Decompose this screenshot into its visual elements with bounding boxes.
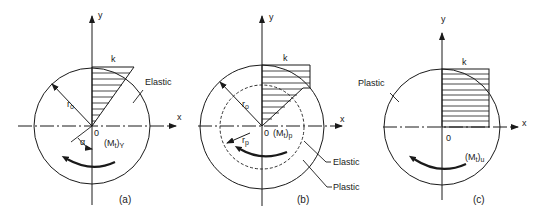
torsion-stress-distribution-figure: y x k Elastic ro 0 α (Mt)Y (a) [0, 0, 540, 219]
partial-plastic-torque-label: (Mt)p [273, 128, 292, 140]
hatch-lines [262, 71, 310, 119]
plastic-radius-label: rp [242, 135, 249, 147]
panel-b-caption: (b) [297, 194, 309, 205]
panel-a-labels: y x k Elastic ro 0 α (Mt)Y (a) [67, 10, 182, 205]
plastic-label: Plastic [333, 182, 360, 192]
shear-stress-label: k [111, 54, 116, 64]
torque-arrow [240, 149, 287, 156]
elastic-leader [304, 141, 331, 162]
torque-arrow [414, 159, 466, 169]
origin-label: 0 [446, 133, 451, 143]
panel-a-elastic [18, 16, 176, 205]
shear-stress-label: k [462, 57, 467, 67]
origin-label: 0 [264, 128, 269, 138]
stress-profile [262, 65, 310, 126]
plastic-leader [303, 160, 332, 187]
panel-c-fully-plastic [383, 33, 518, 200]
panel-b-labels: y x k ro rp 0 (Mt)p Elastic Plastic (b) [242, 12, 360, 205]
x-axis-label: x [522, 118, 527, 128]
angle-alpha-label: α [80, 137, 85, 147]
stress-triangle [92, 67, 134, 126]
origin-label: 0 [94, 128, 99, 138]
stress-rectangle [442, 69, 489, 127]
elastic-label: Elastic [333, 157, 360, 167]
panel-c-caption: (c) [473, 194, 485, 205]
y-axis-label: y [269, 12, 274, 22]
y-axis-label: y [98, 10, 103, 20]
yield-torque-label: (Mt)Y [104, 138, 124, 149]
x-axis-label: x [340, 114, 345, 124]
elastic-label: Elastic [145, 77, 172, 87]
ultimate-torque-label: (Mt)u [465, 152, 484, 163]
panel-b-elastic-plastic [198, 16, 342, 206]
hatch-lines [442, 74, 489, 121]
y-axis-label: y [441, 14, 446, 24]
outer-radius-arrow [220, 82, 262, 126]
torque-arrow [67, 159, 115, 167]
shear-stress-label: k [283, 53, 288, 63]
panel-a-caption: (a) [119, 194, 131, 205]
x-axis-label: x [177, 112, 182, 122]
radius-label: ro [67, 99, 74, 110]
outer-radius-label: ro [242, 99, 249, 110]
plastic-label: Plastic [358, 78, 385, 88]
